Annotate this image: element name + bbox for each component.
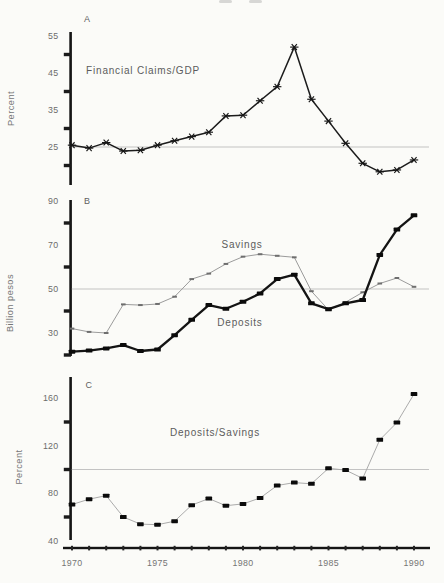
series-deposits-marker [325, 307, 332, 311]
panel-B-ytick-label-50: 50 [48, 284, 58, 294]
series-savings-marker [138, 304, 143, 306]
series-deposits-marker [359, 298, 366, 302]
panel-A-ytick-label-25: 25 [48, 142, 58, 152]
panel-C-ytick-60 [64, 515, 71, 518]
xtick-1973 [122, 546, 124, 551]
series-deposits-savings-marker [274, 484, 281, 488]
xtick-1974 [139, 546, 141, 551]
series-deposits-marker [86, 349, 93, 353]
x-axis [63, 547, 430, 549]
xtick-1979 [225, 546, 227, 551]
series-deposits-marker [103, 346, 110, 350]
series-deposits-savings-marker [188, 503, 195, 507]
xtick-1971 [88, 546, 90, 551]
year-label-1985: 1985 [318, 558, 339, 568]
series-deposits-savings-marker [325, 466, 332, 470]
series-deposits-savings-marker [394, 421, 401, 425]
panel-A-ytick-label-55: 55 [48, 31, 58, 41]
panel-B-ytick-label-30: 30 [48, 328, 58, 338]
series-deposits-marker [394, 228, 401, 232]
series-deposits-savings-marker [86, 497, 93, 501]
panel-B-ytick-20 [64, 353, 71, 356]
series-deposits-marker [411, 213, 418, 217]
panel-C-ytick-label-160: 160 [43, 393, 59, 403]
series-deposits-marker [308, 301, 315, 305]
panel-A-ytick-label-35: 35 [48, 105, 58, 115]
panel-C-ytick-140 [64, 420, 71, 423]
panel-A-ytick-30 [64, 127, 71, 130]
panel-C-ytick-label-80: 80 [48, 488, 58, 498]
series-deposits-savings-marker [120, 515, 127, 519]
series-deposits-marker [274, 277, 281, 281]
series-deposits-savings-marker [171, 519, 178, 523]
series-savings-marker [189, 278, 194, 280]
series-savings-label: Savings [221, 239, 262, 250]
series-savings-marker [121, 303, 126, 305]
series-deposits-marker [69, 350, 76, 354]
series-deposits-savings-marker [342, 468, 349, 472]
panel-B-ytick-label-70: 70 [48, 240, 58, 250]
xtick-1982 [276, 546, 278, 551]
series-deposits-marker [120, 343, 127, 347]
xtick-1970 [71, 546, 73, 551]
series-deposits-savings-marker [240, 502, 247, 506]
series-deposits-savings-marker [359, 476, 366, 480]
series-deposits-savings-marker [377, 438, 384, 442]
panel-A-title: Financial Claims/GDP [86, 65, 200, 76]
panel-C-ytick-label-40: 40 [48, 536, 58, 546]
series-deposits-marker [206, 303, 213, 307]
panel-C-ytick-label-120: 120 [43, 441, 59, 451]
year-label-1980: 1980 [233, 558, 254, 568]
panel-A-letter: A [84, 14, 91, 24]
panel-B-ylabel: Billion pesos [5, 274, 15, 332]
series-savings-marker [224, 263, 229, 265]
panel-A-ylabel: Percent [6, 91, 16, 126]
series-savings-marker [395, 277, 400, 279]
panel-B-ytick-60 [64, 265, 71, 268]
series-deposits-savings-marker [291, 481, 298, 485]
series-deposits-marker [171, 333, 178, 337]
panel-C-ytick-100 [64, 468, 71, 471]
xtick-1983 [293, 546, 295, 551]
series-savings-marker [241, 256, 246, 258]
series-savings-marker [155, 303, 160, 305]
series-deposits-marker [257, 291, 264, 295]
xtick-1988 [379, 546, 381, 551]
panel-B-ytick-80 [64, 221, 71, 224]
series-savings-marker [378, 283, 383, 285]
series-savings-marker [292, 256, 297, 258]
xtick-1980 [242, 546, 244, 551]
series-savings-marker [275, 255, 280, 257]
series-savings-marker [258, 253, 263, 255]
panel-C-ylabel: Percent [14, 449, 24, 484]
panel-A-ytick-label-45: 45 [48, 68, 58, 78]
xtick-1990 [413, 546, 415, 551]
series-savings-marker [309, 290, 314, 292]
labels-layer: 55453525AFinancial Claims/GDPPercent9070… [5, 14, 425, 568]
series-deposits-savings-marker [137, 522, 144, 526]
series-deposits-marker [154, 348, 161, 352]
panel-B-ytick-label-90: 90 [48, 196, 58, 206]
series-savings-marker [104, 332, 109, 334]
panel-A-ytick-40 [64, 90, 71, 93]
series-deposits-marker [342, 301, 349, 305]
panel-C-letter: C [86, 380, 93, 390]
panel-A-ytick-50 [64, 53, 71, 56]
panel-B-letter: B [84, 196, 91, 206]
series-deposits-marker [377, 253, 384, 257]
xtick-1978 [208, 546, 210, 551]
series-deposits-savings-marker [154, 523, 161, 527]
series-deposits-savings-marker [69, 503, 76, 507]
series-savings-marker [87, 331, 92, 333]
panel-B-ytick-40 [64, 309, 71, 312]
series-deposits-marker [137, 349, 144, 353]
series-savings-marker [70, 328, 75, 330]
year-label-1990: 1990 [404, 558, 425, 568]
series-deposits-marker [291, 273, 298, 277]
xtick-1976 [174, 546, 176, 551]
xtick-1986 [345, 546, 347, 551]
series-deposits-line [72, 215, 414, 351]
series-savings-marker [412, 286, 417, 288]
xtick-1981 [259, 546, 261, 551]
series-savings-marker [207, 273, 212, 275]
